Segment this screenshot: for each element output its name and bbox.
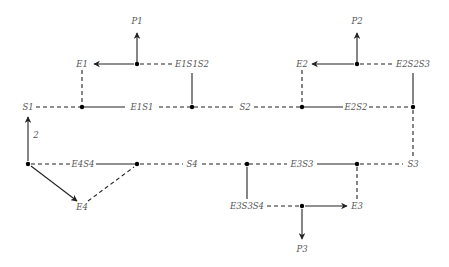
junction-dot <box>245 162 249 166</box>
junction-dot <box>26 162 30 166</box>
junction-dot <box>135 162 139 166</box>
row-s1-s2 <box>36 105 415 158</box>
edge-e4-dot <box>88 167 134 201</box>
node-s3: S3 <box>407 159 418 169</box>
junction-dot <box>300 105 304 109</box>
node-e2s2: E2S2 <box>344 102 368 112</box>
node-e3s3s4: E3S3S4 <box>229 201 264 211</box>
node-s2: S2 <box>239 102 250 112</box>
node-e4s4: E4S4 <box>71 159 95 169</box>
node-e3: E3 <box>350 201 363 211</box>
node-e2: E2 <box>295 59 308 69</box>
node-s4: S4 <box>186 159 197 169</box>
junction-dot <box>355 162 359 166</box>
junction-dot <box>411 105 415 109</box>
junction-dot <box>80 105 84 109</box>
node-e1: E1 <box>75 59 88 69</box>
node-e4: E4 <box>75 202 88 212</box>
network-diagram: P1 P2 E1 E1S1S2 E2 E2S2S3 S1 E1S1 S2 E2S… <box>0 0 449 267</box>
edge-to-e4 <box>31 166 77 201</box>
junction-dot <box>300 204 304 208</box>
node-e1s1s2: E1S1S2 <box>174 59 209 69</box>
node-e2s2s3: E2S2S3 <box>395 59 430 69</box>
node-p3: P3 <box>295 244 307 254</box>
edge-label-2: 2 <box>32 130 38 140</box>
node-e1s1: E1S1 <box>130 102 154 112</box>
node-s1: S1 <box>22 102 33 112</box>
node-p2: P2 <box>350 16 362 26</box>
node-e3s3: E3S3 <box>290 159 314 169</box>
junction-dot <box>190 105 194 109</box>
junction-dot <box>355 62 359 66</box>
junction-dot <box>135 62 139 66</box>
node-p1: P1 <box>130 16 142 26</box>
